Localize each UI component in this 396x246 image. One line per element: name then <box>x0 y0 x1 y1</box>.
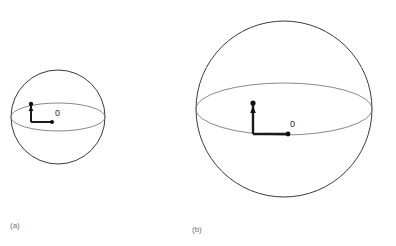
equator-back-arc-b <box>196 83 372 109</box>
equator-front-arc-a <box>11 117 105 131</box>
vector-arrowhead-a <box>29 106 34 111</box>
origin-dot-b <box>286 132 291 137</box>
panel-caption-b: (b) <box>192 225 202 234</box>
sphere-outline-b <box>196 21 372 197</box>
panel-b-group: 0 (b) <box>192 21 372 234</box>
equator-front-arc-b <box>196 109 372 135</box>
origin-label-b: 0 <box>290 119 295 129</box>
origin-label-a: 0 <box>55 108 60 118</box>
panel-caption-a: (a) <box>10 221 20 230</box>
origin-dot-a <box>50 120 54 124</box>
sphere-figure-canvas: 0 (a) 0 (b) <box>0 0 396 246</box>
vector-arrowhead-b <box>250 106 256 113</box>
vector-tip-dot-a <box>29 102 33 106</box>
vector-tip-dot-b <box>250 100 255 105</box>
figure-root: 0 (a) 0 (b) <box>0 0 396 246</box>
panel-a-group: 0 (a) <box>10 70 105 230</box>
